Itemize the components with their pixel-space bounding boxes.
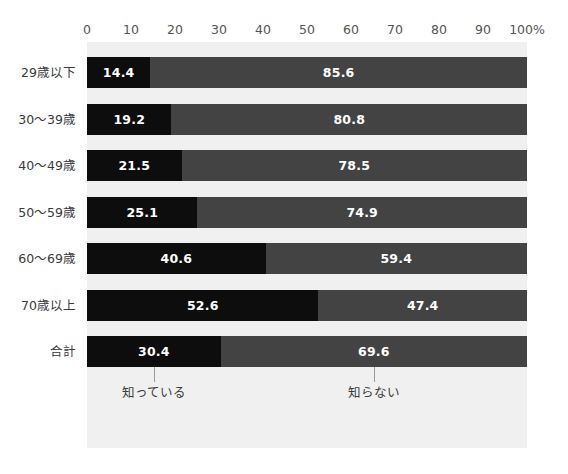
bar-track: 14.485.6 bbox=[87, 57, 527, 88]
bar-segment-value: 74.9 bbox=[346, 205, 378, 220]
bar-track: 30.469.6 bbox=[87, 336, 527, 367]
bar-segment-dontknow: 78.5 bbox=[182, 150, 527, 181]
row-category-label: 合計 bbox=[50, 336, 76, 367]
bar-segment-value: 40.6 bbox=[160, 251, 192, 266]
chart-row: 70歳以上52.647.4 bbox=[0, 290, 568, 321]
bar-segment-dontknow: 47.4 bbox=[318, 290, 527, 321]
bar-segment-know: 14.4 bbox=[87, 57, 150, 88]
chart-row: 50〜59歳25.174.9 bbox=[0, 197, 568, 228]
x-tick-label: 0 bbox=[83, 22, 91, 38]
bar-track: 25.174.9 bbox=[87, 197, 527, 228]
bar-segment-know: 19.2 bbox=[87, 104, 171, 135]
bar-segment-know: 21.5 bbox=[87, 150, 182, 181]
bar-track: 21.578.5 bbox=[87, 150, 527, 181]
bar-track: 40.659.4 bbox=[87, 243, 527, 274]
x-tick-label: 20 bbox=[167, 22, 183, 38]
row-category-label: 29歳以下 bbox=[21, 57, 76, 88]
row-category-label: 40〜49歳 bbox=[18, 150, 76, 181]
x-axis-tick-labels: 0102030405060708090100% bbox=[87, 22, 527, 40]
chart-row: 29歳以下14.485.6 bbox=[0, 57, 568, 88]
bar-segment-value: 21.5 bbox=[118, 158, 150, 173]
bar-segment-value: 59.4 bbox=[380, 251, 412, 266]
chart-row: 合計30.469.6 bbox=[0, 336, 568, 367]
bar-segment-know: 52.6 bbox=[87, 290, 318, 321]
chart-row: 60〜69歳40.659.4 bbox=[0, 243, 568, 274]
bar-segment-value: 85.6 bbox=[323, 65, 355, 80]
bar-segment-know: 30.4 bbox=[87, 336, 221, 367]
bar-track: 19.280.8 bbox=[87, 104, 527, 135]
chart-row: 30〜39歳19.280.8 bbox=[0, 104, 568, 135]
bar-track: 52.647.4 bbox=[87, 290, 527, 321]
bar-segment-dontknow: 59.4 bbox=[266, 243, 527, 274]
x-tick-label: 80 bbox=[431, 22, 447, 38]
chart-rows: 29歳以下14.485.630〜39歳19.280.840〜49歳21.578.… bbox=[0, 42, 568, 448]
bar-segment-dontknow: 85.6 bbox=[150, 57, 527, 88]
x-tick-label: 60 bbox=[343, 22, 359, 38]
bar-segment-value: 19.2 bbox=[113, 112, 145, 127]
row-category-label: 50〜59歳 bbox=[18, 197, 76, 228]
bar-segment-know: 25.1 bbox=[87, 197, 197, 228]
x-tick-label: 100% bbox=[509, 22, 545, 38]
chart-row: 40〜49歳21.578.5 bbox=[0, 150, 568, 181]
bar-segment-value: 52.6 bbox=[187, 298, 219, 313]
bar-segment-dontknow: 69.6 bbox=[221, 336, 527, 367]
x-tick-label: 90 bbox=[475, 22, 491, 38]
bar-segment-know: 40.6 bbox=[87, 243, 266, 274]
bar-segment-value: 80.8 bbox=[333, 112, 365, 127]
row-category-label: 60〜69歳 bbox=[18, 243, 76, 274]
bar-segment-value: 47.4 bbox=[407, 298, 439, 313]
x-tick-label: 70 bbox=[387, 22, 403, 38]
bar-segment-value: 25.1 bbox=[126, 205, 158, 220]
bar-segment-dontknow: 80.8 bbox=[171, 104, 527, 135]
x-tick-label: 40 bbox=[255, 22, 271, 38]
bar-segment-value: 30.4 bbox=[138, 344, 170, 359]
bar-segment-value: 69.6 bbox=[358, 344, 390, 359]
row-category-label: 70歳以上 bbox=[21, 290, 76, 321]
x-tick-label: 10 bbox=[123, 22, 139, 38]
bar-segment-value: 78.5 bbox=[338, 158, 370, 173]
stacked-bar-chart: 0102030405060708090100% 29歳以下14.485.630〜… bbox=[0, 0, 568, 474]
bar-segment-dontknow: 74.9 bbox=[197, 197, 527, 228]
bar-segment-value: 14.4 bbox=[103, 65, 135, 80]
x-tick-label: 50 bbox=[299, 22, 315, 38]
x-tick-label: 30 bbox=[211, 22, 227, 38]
row-category-label: 30〜39歳 bbox=[18, 104, 76, 135]
